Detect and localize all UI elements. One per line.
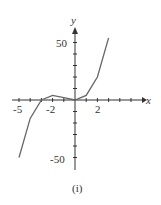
tick-label: -5 bbox=[13, 103, 23, 115]
y-arrow-icon bbox=[72, 27, 78, 34]
tick-label: 50 bbox=[56, 37, 68, 49]
x-label: x bbox=[145, 94, 151, 106]
tick-label: -2 bbox=[46, 103, 55, 115]
caption: (i) bbox=[72, 182, 83, 195]
tick-label: -50 bbox=[50, 153, 65, 165]
y-label: y bbox=[70, 14, 76, 26]
tick-label: 2 bbox=[95, 103, 101, 115]
chart: x y -5 -2 2 50 -50 (i) bbox=[0, 0, 161, 205]
curve bbox=[19, 38, 109, 158]
